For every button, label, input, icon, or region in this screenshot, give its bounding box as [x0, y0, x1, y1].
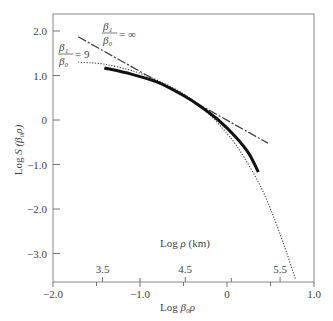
- y-tick-labels: 2.01.00−1.0−2.0−3.0: [27, 25, 47, 260]
- annotation-beta-infinity: β₁ β₀ = ∞: [102, 20, 136, 46]
- secondary-x-axis: [103, 277, 280, 282]
- x-tick-labels: −2.0−1.001.0: [43, 288, 321, 300]
- y-tick-label: −1.0: [27, 159, 47, 171]
- x-tick-label: −2.0: [43, 288, 63, 300]
- x-tick-label: 0: [224, 288, 230, 300]
- y-axis-title: Log S (β₀ρ): [12, 124, 25, 175]
- svg-text:β₁: β₁: [102, 20, 112, 32]
- secondary-x-tick-label: 5.5: [273, 263, 287, 275]
- y-tick-label: −2.0: [27, 203, 47, 215]
- svg-text:β₀: β₀: [58, 55, 68, 67]
- secondary-x-tick-label: 3.5: [96, 263, 110, 275]
- secondary-x-tick-label: 4.5: [178, 263, 192, 275]
- secondary-x-tick-labels: 3.54.55.5: [96, 263, 288, 275]
- secondary-x-axis-title: Log ρ (km): [160, 237, 210, 250]
- y-tick-label: 0: [42, 114, 48, 126]
- x-axis: [53, 282, 314, 287]
- x-tick-label: −1.0: [130, 288, 150, 300]
- annotation-beta-nine: β₁ β₀ = 9: [58, 41, 90, 67]
- svg-text:β₁: β₁: [58, 41, 68, 53]
- series-observed-line: [104, 68, 258, 172]
- y-tick-label: −3.0: [27, 248, 47, 260]
- y-tick-label: 1.0: [33, 70, 47, 82]
- svg-text:β₀: β₀: [102, 34, 112, 46]
- chart: 2.01.00−1.0−2.0−3.0 −2.0−1.001.0 3.54.55…: [0, 0, 333, 321]
- x-axis-title: Log β₀ρ: [160, 301, 195, 313]
- x-tick-label: 1.0: [307, 288, 321, 300]
- y-tick-label: 2.0: [33, 25, 47, 37]
- svg-text:= ∞: = ∞: [119, 28, 136, 40]
- svg-text:= 9: = 9: [75, 48, 90, 60]
